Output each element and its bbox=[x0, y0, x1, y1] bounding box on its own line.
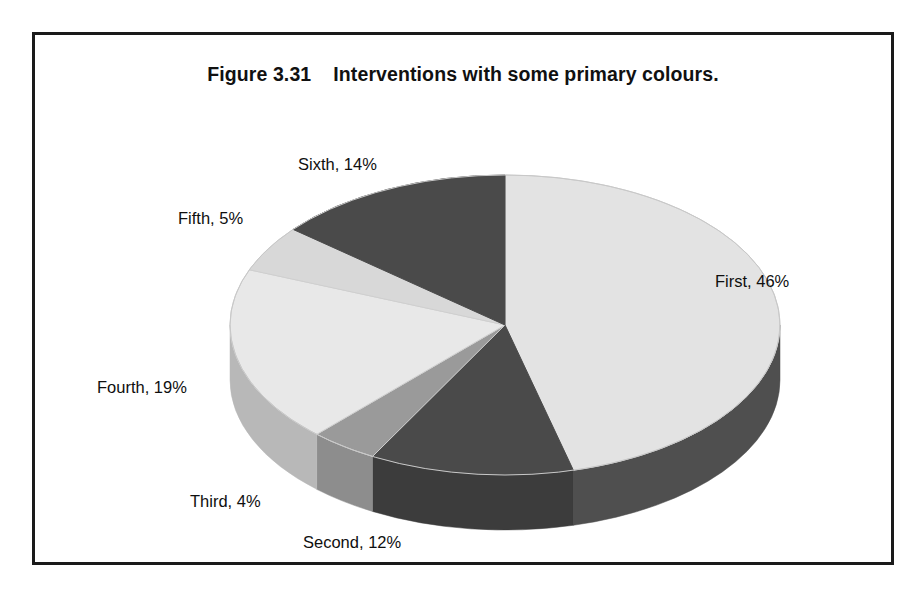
figure-page: Figure 3.31 Interventions with some prim… bbox=[0, 0, 923, 597]
pie-label-sixth: Sixth, 14% bbox=[298, 155, 377, 173]
pie-label-fifth: Fifth, 5% bbox=[178, 209, 243, 227]
figure-frame: Figure 3.31 Interventions with some prim… bbox=[32, 32, 894, 565]
pie-label-third: Third, 4% bbox=[190, 492, 261, 510]
pie-label-fourth: Fourth, 19% bbox=[97, 378, 187, 396]
pie-chart-svg bbox=[35, 35, 897, 568]
pie-chart-plot-area: First, 46% Second, 12% Third, 4% Fourth,… bbox=[35, 35, 897, 568]
pie-top-face bbox=[230, 175, 780, 475]
pie-label-second: Second, 12% bbox=[303, 533, 401, 551]
pie-label-first: First, 46% bbox=[715, 272, 789, 290]
